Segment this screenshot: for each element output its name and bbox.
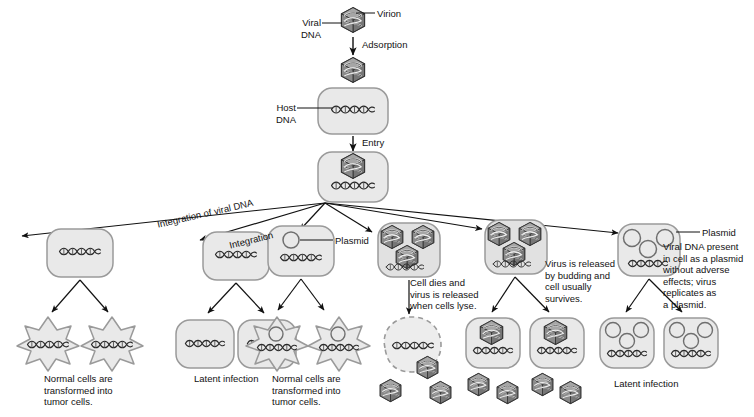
latent-cell-1 xyxy=(176,320,234,368)
branch4-virion-b xyxy=(412,226,433,249)
branch6-description: Viral DNA present in cell as a plasmid w… xyxy=(663,241,749,310)
branch3-arrow-left xyxy=(278,279,301,310)
viral-dna-label: Viral DNA xyxy=(283,17,321,40)
branch1-arrow-left xyxy=(52,280,80,312)
branch1-arrow-right xyxy=(80,280,108,312)
branch6-outcome-text: Latent infection xyxy=(614,378,678,390)
lpc1-plasmid-b xyxy=(634,323,649,338)
virion-inside-cell xyxy=(341,154,364,179)
branch5-arrow-right xyxy=(515,277,549,312)
budded-virion-3 xyxy=(532,373,553,395)
branch1-cell xyxy=(47,229,113,277)
budding-cell-2-virion xyxy=(544,321,566,345)
branch3-plasmid-label: Plasmid xyxy=(335,235,369,247)
branch1-outcome-text: Normal cells are transformed into tumor … xyxy=(44,373,136,408)
tumor-plasmid-2-circle xyxy=(331,327,345,341)
branch6-plasmid-label: Plasmid xyxy=(702,227,736,239)
tumor-cell-2 xyxy=(81,317,143,371)
branch6-plasmid-a xyxy=(624,230,641,247)
lysis-process-text: Cell dies and virus is released when cel… xyxy=(410,277,484,312)
diagram-canvas: Virion Viral DNA Adsorption Host DNA Ent… xyxy=(0,0,754,417)
branch-arrow-6 xyxy=(325,203,618,233)
lpc1-plasmid-c xyxy=(620,334,635,349)
budding-process-text: Virus is released by budding and cell us… xyxy=(545,258,621,304)
tumor-plasmid-1-circle xyxy=(269,327,283,341)
host-dna-label: Host DNA xyxy=(258,102,296,125)
branch5-virion-a xyxy=(488,223,509,246)
adsorption-label: Adsorption xyxy=(362,39,407,51)
virion-attached xyxy=(341,58,364,83)
entry-label: Entry xyxy=(362,137,384,149)
virion-label: Virion xyxy=(377,8,401,20)
lpc2-plasmid-a xyxy=(670,323,685,338)
branch5-arrow-left xyxy=(492,277,515,312)
branch6-plasmid-c xyxy=(640,241,657,258)
budding-cell-1-virion xyxy=(480,321,502,345)
branch3-outcome-text: Normal cells are transformed into tumor … xyxy=(272,373,364,408)
branch4-virion-a xyxy=(381,226,402,249)
host-cell-empty xyxy=(318,88,388,134)
released-virion-3 xyxy=(430,381,451,403)
virion-top xyxy=(341,8,364,33)
branch5-virion-b xyxy=(519,223,540,246)
lpc1-plasmid-a xyxy=(606,323,621,338)
branch2-outcome-text: Latent infection xyxy=(194,373,258,385)
tumor-cell-1 xyxy=(17,317,79,371)
diagram-graphics xyxy=(0,0,754,417)
branch2-arrow-left xyxy=(208,283,236,313)
branch3-arrow-right xyxy=(301,279,324,310)
budded-virion-4 xyxy=(560,381,581,403)
lpc2-plasmid-b xyxy=(698,323,713,338)
released-virion-1 xyxy=(417,356,438,378)
budded-virion-1 xyxy=(468,373,489,395)
released-virion-2 xyxy=(380,379,401,401)
branch2-arrow-right xyxy=(236,283,264,313)
branch3-cell xyxy=(268,226,334,276)
budded-virion-2 xyxy=(497,381,518,403)
branch6-arrow-left xyxy=(626,279,649,312)
lpc2-plasmid-c xyxy=(684,334,699,349)
branch3-plasmid xyxy=(283,232,299,248)
tumor-plasmid-cell-2 xyxy=(308,317,370,371)
